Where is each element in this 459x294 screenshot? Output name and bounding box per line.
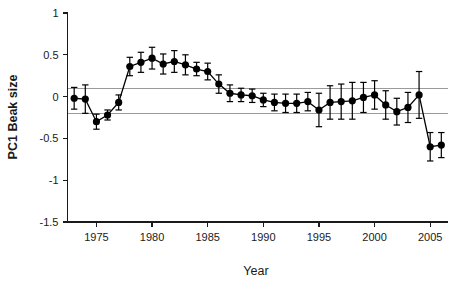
- data-point-marker: [82, 96, 89, 103]
- x-tick-label: 2000: [362, 231, 386, 243]
- data-point-marker: [193, 65, 200, 72]
- data-point-marker: [260, 96, 267, 103]
- data-point-marker: [293, 100, 300, 107]
- data-point-marker: [393, 108, 400, 115]
- data-point-marker: [382, 101, 389, 108]
- data-point-marker: [104, 111, 111, 118]
- data-point-marker: [226, 90, 233, 97]
- data-point-marker: [126, 63, 133, 70]
- y-axis-title: PC1 Beak size: [6, 75, 20, 160]
- pc1-beak-size-chart: PC1 Beak size Year 10.50-0.5-1-1.5 19751…: [0, 0, 459, 294]
- x-tick-label: 1995: [307, 231, 331, 243]
- data-point-marker: [71, 95, 78, 102]
- x-tick-label: 2005: [418, 231, 442, 243]
- x-tick-label: 1975: [84, 231, 108, 243]
- x-tick-label: 1990: [251, 231, 275, 243]
- data-point-marker: [360, 94, 367, 101]
- data-point-marker: [282, 100, 289, 107]
- data-point-marker: [349, 97, 356, 104]
- data-point-marker: [315, 106, 322, 113]
- data-point-marker: [415, 91, 422, 98]
- data-point-marker: [249, 92, 256, 99]
- data-point-marker: [427, 143, 434, 150]
- data-point-marker: [404, 104, 411, 111]
- data-point-marker: [204, 68, 211, 75]
- y-tick-label: -1.5: [40, 216, 59, 228]
- y-tick-label: -1: [49, 174, 59, 186]
- data-point-marker: [215, 80, 222, 87]
- data-point-marker: [182, 61, 189, 68]
- x-axis-ticks: 1975198019851990199520002005: [84, 222, 442, 243]
- data-point-marker: [438, 141, 445, 148]
- data-point-marker: [171, 58, 178, 65]
- y-tick-label: -0.5: [40, 132, 59, 144]
- data-point-marker: [304, 98, 311, 105]
- x-tick-label: 1985: [195, 231, 219, 243]
- data-point-marker: [148, 55, 155, 62]
- data-point-marker: [326, 99, 333, 106]
- reference-lines: [68, 88, 449, 113]
- x-tick-label: 1980: [140, 231, 164, 243]
- y-axis-ticks: 10.50-0.5-1-1.5: [40, 7, 68, 228]
- data-point-marker: [371, 91, 378, 98]
- data-markers: [71, 55, 445, 151]
- y-tick-label: 0: [52, 91, 58, 103]
- y-tick-label: 1: [52, 7, 58, 19]
- data-point-marker: [271, 99, 278, 106]
- data-point-marker: [237, 91, 244, 98]
- data-point-marker: [137, 59, 144, 66]
- data-point-marker: [338, 98, 345, 105]
- data-point-marker: [115, 99, 122, 106]
- x-axis-title: Year: [243, 264, 268, 278]
- data-point-marker: [93, 118, 100, 125]
- data-point-marker: [160, 60, 167, 67]
- y-tick-label: 0.5: [43, 49, 58, 61]
